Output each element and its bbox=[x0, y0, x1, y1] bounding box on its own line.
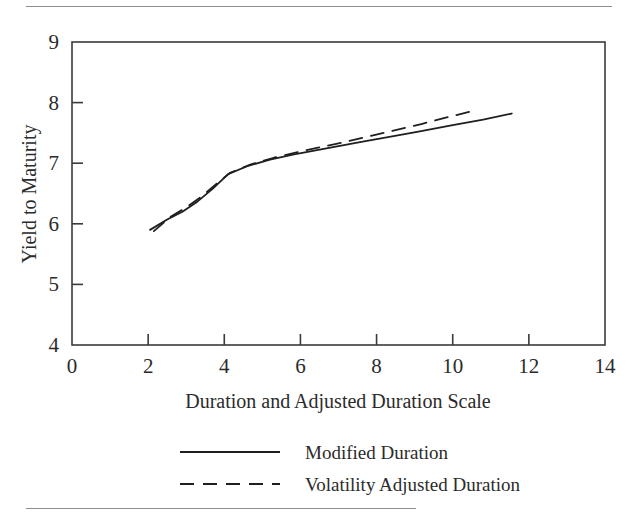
x-tick-label-10: 10 bbox=[442, 354, 463, 378]
x-axis-ticks bbox=[148, 334, 529, 345]
x-tick-label-6: 6 bbox=[295, 354, 306, 378]
data-series-group bbox=[150, 110, 512, 231]
x-axis-title: Duration and Adjusted Duration Scale bbox=[185, 390, 491, 413]
x-tick-label-14: 14 bbox=[595, 354, 617, 378]
x-axis-tick-labels: 02468101214 bbox=[67, 354, 616, 378]
chart-canvas: 456789 02468101214 Yield to Maturity Dur… bbox=[0, 0, 638, 519]
page-rule-bottom bbox=[26, 508, 416, 509]
y-tick-label-5: 5 bbox=[49, 272, 60, 296]
x-tick-label-4: 4 bbox=[219, 354, 230, 378]
legend-label-1: Volatility Adjusted Duration bbox=[305, 474, 520, 495]
y-axis-ticks bbox=[72, 103, 83, 285]
y-axis-title: Yield to Maturity bbox=[18, 125, 41, 264]
plot-frame bbox=[72, 42, 605, 345]
y-axis-tick-labels: 456789 bbox=[49, 30, 60, 357]
x-tick-label-0: 0 bbox=[67, 354, 78, 378]
x-tick-label-2: 2 bbox=[143, 354, 154, 378]
y-tick-label-8: 8 bbox=[49, 91, 60, 115]
y-tick-label-7: 7 bbox=[49, 151, 60, 175]
figure-root: 456789 02468101214 Yield to Maturity Dur… bbox=[0, 0, 638, 519]
y-tick-label-9: 9 bbox=[49, 30, 60, 54]
y-tick-label-6: 6 bbox=[49, 212, 60, 236]
chart-legend: Modified DurationVolatility Adjusted Dur… bbox=[180, 442, 520, 495]
x-tick-label-12: 12 bbox=[518, 354, 539, 378]
duration-yield-chart: 456789 02468101214 Yield to Maturity Dur… bbox=[0, 0, 638, 519]
y-tick-label-4: 4 bbox=[49, 333, 60, 357]
legend-label-0: Modified Duration bbox=[305, 442, 449, 463]
x-tick-label-8: 8 bbox=[371, 354, 382, 378]
series-line-1 bbox=[154, 110, 478, 231]
series-line-0 bbox=[150, 114, 512, 230]
